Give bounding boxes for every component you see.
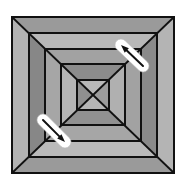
ring-2-right-band [141,33,157,157]
ring-1-top-band [12,17,174,33]
ring-2-left-band [29,33,45,157]
nested-squares-diagram [0,0,189,180]
ring-2-top-band [29,33,157,49]
ring-1-right-band [157,17,174,173]
ring-2-bottom-band [29,141,157,157]
ring-1-bottom-band [12,157,174,173]
ring-1-left-band [12,17,29,173]
